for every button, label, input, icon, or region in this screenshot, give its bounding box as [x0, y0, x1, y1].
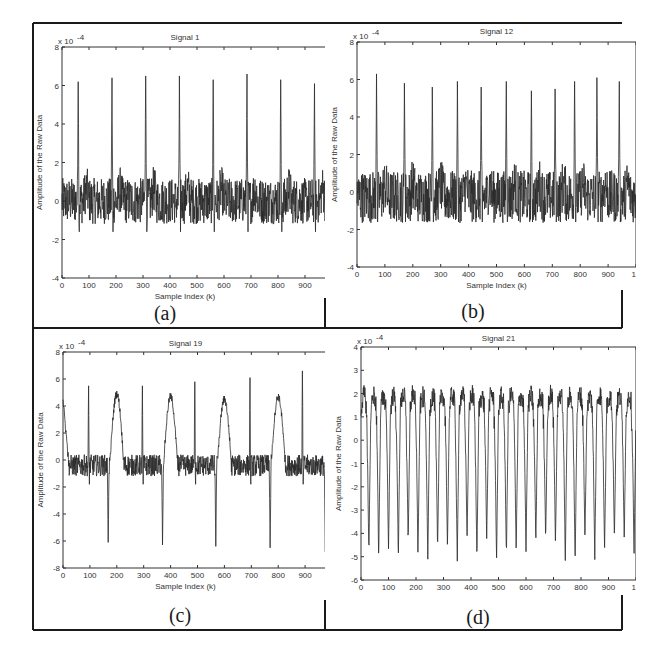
chart-panel-b: 86420-2-4010020030040050060070080090010x…: [330, 27, 641, 290]
chart-panel-a: 86420-2-40100200300400500600700800900x 1…: [35, 33, 332, 301]
x-tick-label: 600: [518, 270, 532, 279]
y-tick-label: 4: [55, 120, 60, 129]
y-tick-label: 2: [354, 390, 359, 399]
x-tick-label: 400: [462, 270, 476, 279]
y-tick-label: 6: [350, 76, 355, 85]
y-tick-label: -3: [351, 506, 359, 515]
y-tick-label: -2: [347, 226, 355, 235]
x-tick-label: 0: [60, 281, 65, 290]
panel-label-c: (c): [169, 604, 191, 627]
signal-trace: [63, 371, 332, 552]
y-tick-label: -5: [351, 553, 359, 562]
y-tick-label: -6: [53, 537, 61, 546]
y-tick-label: 1: [354, 413, 359, 422]
y-tick-label: -2: [53, 483, 61, 492]
x-tick-label: 0: [359, 583, 364, 592]
y-multiplier-exponent: -4: [77, 33, 85, 42]
x-tick-label: 700: [547, 583, 561, 592]
x-tick-label: 100: [382, 583, 396, 592]
chart-panel-d: 43210-1-2-3-4-5-601002003004005006007008…: [334, 333, 641, 592]
signal-trace: [357, 74, 636, 223]
x-tick-label: 10: [632, 583, 641, 592]
x-tick-label: 1: [330, 571, 335, 580]
chart-title: Signal 19: [169, 339, 203, 348]
x-tick-label: 300: [437, 583, 451, 592]
signal-trace: [361, 385, 636, 561]
chart-title: Signal 1: [171, 33, 200, 42]
y-tick-label: -1: [351, 460, 359, 469]
x-tick-label: 10: [632, 270, 641, 279]
y-multiplier-exponent: -4: [372, 28, 380, 37]
x-tick-label: 500: [190, 281, 204, 290]
y-tick-label: 3: [354, 366, 359, 375]
x-tick-label: 600: [218, 571, 232, 580]
x-tick-label: 100: [82, 281, 96, 290]
x-tick-label: 800: [574, 270, 588, 279]
signal-trace: [62, 74, 332, 232]
panel-label-b: (b): [461, 300, 484, 323]
x-tick-label: 800: [574, 583, 588, 592]
x-tick-label: 500: [492, 583, 506, 592]
y-multiplier-exponent: -4: [78, 338, 86, 347]
x-tick-label: 800: [272, 571, 286, 580]
x-tick-label: 0: [61, 571, 66, 580]
x-tick-label: 300: [434, 270, 448, 279]
x-tick-label: 700: [245, 571, 259, 580]
chart-title: Signal 21: [482, 334, 516, 343]
y-tick-label: -6: [351, 576, 359, 585]
y-axis-title: Amplitude of the Raw Data: [334, 415, 343, 511]
x-tick-label: 500: [490, 270, 504, 279]
y-tick-label: 0: [350, 188, 355, 197]
y-axis-title: Amplitude of the Raw Data: [36, 412, 45, 508]
y-tick-label: -4: [52, 274, 60, 283]
x-tick-label: 500: [191, 571, 205, 580]
y-multiplier-label: x 10: [357, 337, 373, 346]
x-axis-title: Sample Index (k): [155, 292, 216, 301]
x-tick-label: 200: [406, 270, 420, 279]
x-tick-label: 100: [378, 270, 392, 279]
x-tick-label: 700: [244, 281, 258, 290]
y-tick-label: 0: [354, 436, 359, 445]
x-tick-label: 800: [271, 281, 285, 290]
y-multiplier-label: x 10: [58, 37, 74, 46]
y-tick-label: -2: [351, 483, 359, 492]
y-tick-label: -4: [347, 263, 355, 272]
x-tick-label: 700: [546, 270, 560, 279]
x-tick-label: 100: [83, 571, 97, 580]
y-tick-label: 2: [55, 159, 60, 168]
x-tick-label: 900: [601, 270, 615, 279]
x-tick-label: 400: [464, 583, 478, 592]
y-tick-label: 4: [56, 402, 61, 411]
y-tick-label: 2: [350, 151, 355, 160]
figure: 86420-2-40100200300400500600700800900x 1…: [0, 0, 664, 657]
x-axis-title: Sample Index (k): [155, 582, 216, 591]
x-tick-label: 900: [602, 583, 616, 592]
y-tick-label: -4: [351, 529, 359, 538]
x-tick-label: 200: [409, 583, 423, 592]
y-tick-label: 0: [55, 197, 60, 206]
y-tick-label: 6: [56, 375, 61, 384]
y-multiplier-exponent: -4: [376, 333, 384, 342]
y-axis-title: Amplitude of the Raw Data: [330, 106, 339, 202]
x-tick-label: 900: [298, 571, 312, 580]
y-tick-label: -2: [52, 236, 60, 245]
chart-panel-c: 86420-2-4-6-8010020030040050060070080090…: [36, 338, 335, 591]
y-tick-label: 4: [350, 113, 355, 122]
y-tick-label: 2: [56, 429, 61, 438]
y-tick-label: 0: [56, 456, 61, 465]
y-tick-label: -4: [53, 510, 61, 519]
x-tick-label: 200: [110, 571, 124, 580]
x-tick-label: 600: [519, 583, 533, 592]
x-tick-label: 0: [355, 270, 360, 279]
y-multiplier-label: x 10: [353, 32, 369, 41]
y-axis-title: Amplitude of the Raw Data: [35, 114, 44, 210]
x-axis-title: Sample Index (k): [466, 281, 527, 290]
panel-label-d: (d): [466, 606, 489, 629]
y-multiplier-label: x 10: [59, 342, 75, 351]
y-tick-label: -8: [53, 564, 61, 573]
x-tick-label: 600: [217, 281, 231, 290]
x-tick-label: 300: [137, 571, 151, 580]
x-tick-label: 400: [163, 281, 177, 290]
x-tick-label: 200: [109, 281, 123, 290]
panel-label-a: (a): [154, 302, 176, 325]
